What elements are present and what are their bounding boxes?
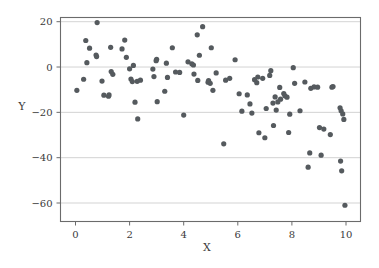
data-point bbox=[131, 63, 136, 68]
data-points-group bbox=[74, 20, 347, 208]
data-point bbox=[342, 203, 347, 208]
data-point bbox=[130, 79, 135, 84]
y-tick-label-0: 20 bbox=[40, 16, 53, 27]
data-point bbox=[150, 66, 155, 71]
data-point bbox=[177, 70, 182, 75]
data-point bbox=[271, 123, 276, 128]
data-point bbox=[278, 97, 283, 102]
data-point bbox=[338, 158, 343, 163]
data-point bbox=[122, 37, 127, 42]
data-point bbox=[84, 60, 89, 65]
data-point bbox=[164, 61, 169, 66]
data-point bbox=[260, 76, 265, 81]
x-axis-title: X bbox=[203, 241, 211, 254]
y-axis-title: Y bbox=[17, 100, 26, 113]
plot-canvas: 0246810 200−20−40−60 X Y bbox=[0, 0, 379, 268]
data-point bbox=[81, 77, 86, 82]
data-point bbox=[340, 111, 345, 116]
data-point bbox=[315, 85, 320, 90]
data-point bbox=[209, 45, 214, 50]
data-point bbox=[87, 46, 92, 51]
data-point bbox=[330, 84, 335, 89]
data-point bbox=[197, 53, 202, 58]
data-point bbox=[249, 110, 254, 115]
data-point bbox=[210, 88, 215, 93]
data-point bbox=[138, 78, 143, 83]
data-point bbox=[132, 100, 137, 105]
data-point bbox=[254, 80, 259, 85]
data-point bbox=[195, 32, 200, 37]
x-tick-label-0: 0 bbox=[72, 229, 78, 240]
data-point bbox=[247, 101, 252, 106]
x-tick-label-2: 4 bbox=[181, 229, 187, 240]
y-tick-label-1: 0 bbox=[46, 62, 52, 73]
data-point bbox=[284, 95, 289, 100]
data-point bbox=[268, 68, 273, 73]
data-point bbox=[302, 79, 307, 84]
data-point bbox=[287, 112, 292, 117]
data-point bbox=[191, 71, 196, 76]
data-point bbox=[151, 74, 156, 79]
data-point bbox=[119, 46, 124, 51]
data-point bbox=[262, 135, 267, 140]
data-point bbox=[328, 132, 333, 137]
data-point bbox=[267, 73, 272, 78]
data-point bbox=[94, 54, 99, 59]
data-point bbox=[297, 108, 302, 113]
data-point bbox=[341, 117, 346, 122]
data-point bbox=[108, 45, 113, 50]
data-point bbox=[214, 70, 219, 75]
data-point bbox=[208, 81, 213, 86]
data-point bbox=[339, 168, 344, 173]
data-point bbox=[95, 20, 100, 25]
data-point bbox=[306, 165, 311, 170]
data-point bbox=[165, 75, 170, 80]
data-point bbox=[274, 107, 279, 112]
x-tick-label-3: 6 bbox=[235, 229, 241, 240]
data-point bbox=[245, 92, 250, 97]
data-point bbox=[321, 127, 326, 132]
data-point bbox=[155, 99, 160, 104]
data-point bbox=[319, 153, 324, 158]
data-point bbox=[292, 81, 297, 86]
data-point bbox=[74, 88, 79, 93]
data-point bbox=[110, 72, 115, 77]
data-point bbox=[286, 130, 291, 135]
data-point bbox=[162, 89, 167, 94]
data-point bbox=[154, 57, 159, 62]
data-point bbox=[291, 65, 296, 70]
data-point bbox=[135, 116, 140, 121]
data-point bbox=[195, 78, 200, 83]
data-point bbox=[227, 76, 232, 81]
y-tick-label-2: −20 bbox=[31, 107, 52, 118]
x-tick-label-5: 10 bbox=[340, 229, 353, 240]
data-point bbox=[181, 112, 186, 117]
data-point bbox=[106, 92, 111, 97]
data-point bbox=[273, 94, 278, 99]
data-point bbox=[256, 130, 261, 135]
y-axis-ticks: 200−20−40−60 bbox=[31, 16, 60, 208]
data-point bbox=[233, 57, 238, 62]
y-tick-label-3: −40 bbox=[31, 152, 52, 163]
data-point bbox=[307, 150, 312, 155]
x-tick-label-1: 2 bbox=[126, 229, 132, 240]
data-point bbox=[237, 91, 242, 96]
data-point bbox=[255, 74, 260, 79]
scatter-plot-figure: 0246810 200−20−40−60 X Y bbox=[0, 0, 379, 268]
data-point bbox=[170, 45, 175, 50]
data-point bbox=[83, 38, 88, 43]
data-point bbox=[277, 85, 282, 90]
data-point bbox=[101, 93, 106, 98]
data-point bbox=[124, 55, 129, 60]
data-point bbox=[191, 62, 196, 67]
data-point bbox=[221, 141, 226, 146]
data-point bbox=[200, 24, 205, 29]
y-tick-label-4: −60 bbox=[31, 198, 52, 209]
data-point bbox=[270, 100, 275, 105]
data-point bbox=[99, 78, 104, 83]
data-point bbox=[264, 106, 269, 111]
x-axis-ticks: 0246810 bbox=[72, 222, 352, 240]
data-point bbox=[239, 109, 244, 114]
x-tick-label-4: 8 bbox=[289, 229, 295, 240]
